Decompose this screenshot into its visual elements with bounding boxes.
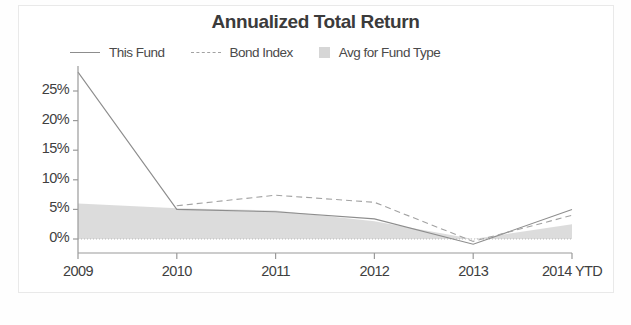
plot-area: 0%5%10%15%20%25%200920102011201220132014… [0, 0, 631, 325]
y-axis-tick-label: 25% [0, 81, 69, 97]
x-axis-tick-label: 2014 YTD [517, 263, 627, 279]
y-axis-tick-label: 10% [0, 170, 69, 186]
x-axis-tick-label: 2010 [122, 263, 232, 279]
x-axis-tick-label: 2013 [418, 263, 528, 279]
annualized-total-return-chart: Annualized Total Return This Fund Bond I… [0, 0, 631, 325]
x-axis-tick-label: 2009 [23, 263, 133, 279]
y-axis-tick-label: 0% [0, 229, 69, 245]
x-axis-tick-label: 2011 [221, 263, 331, 279]
y-axis-tick-label: 20% [0, 111, 69, 127]
y-axis-tick-label: 5% [0, 199, 69, 215]
x-axis-tick-label: 2012 [319, 263, 429, 279]
y-axis-tick-label: 15% [0, 140, 69, 156]
